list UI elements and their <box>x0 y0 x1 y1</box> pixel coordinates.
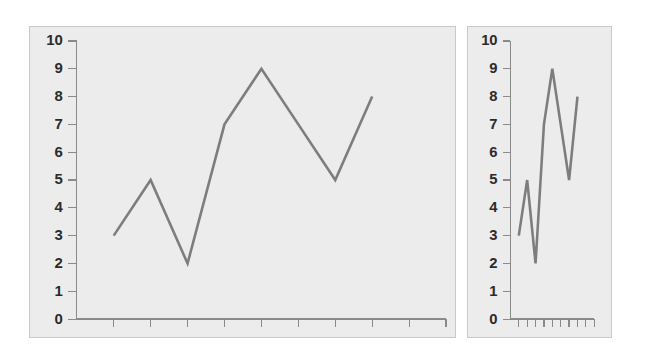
data-series-line <box>114 69 372 264</box>
y-tick-label: 6 <box>55 144 63 160</box>
y-tick-label: 5 <box>489 171 497 187</box>
y-tick-label: 2 <box>489 255 497 271</box>
y-tick-label: 6 <box>489 144 497 160</box>
data-series-line <box>519 69 578 264</box>
line-chart-narrow: 012345678910 <box>468 27 611 337</box>
chart-panel-narrow: 012345678910 <box>467 26 612 338</box>
y-tick-label: 8 <box>55 88 63 104</box>
y-tick-label: 3 <box>489 227 497 243</box>
y-tick-label: 1 <box>55 283 63 299</box>
y-tick-label: 0 <box>489 311 497 327</box>
figure-container: 012345678910 012345678910 <box>0 0 645 359</box>
y-tick-label: 4 <box>489 199 498 215</box>
y-tick-label: 0 <box>55 311 63 327</box>
y-tick-label: 7 <box>489 116 497 132</box>
y-tick-label: 7 <box>55 116 63 132</box>
y-tick-label: 10 <box>481 32 497 48</box>
y-tick-label: 4 <box>55 199 64 215</box>
line-chart-wide: 012345678910 <box>30 27 455 337</box>
y-tick-label: 2 <box>55 255 63 271</box>
y-tick-label: 8 <box>489 88 497 104</box>
y-tick-label: 3 <box>55 227 63 243</box>
chart-panel-wide: 012345678910 <box>29 26 456 338</box>
y-tick-label: 9 <box>55 60 63 76</box>
y-tick-label: 9 <box>489 60 497 76</box>
y-tick-label: 5 <box>55 171 63 187</box>
y-tick-label: 10 <box>46 32 63 48</box>
y-tick-label: 1 <box>489 283 497 299</box>
